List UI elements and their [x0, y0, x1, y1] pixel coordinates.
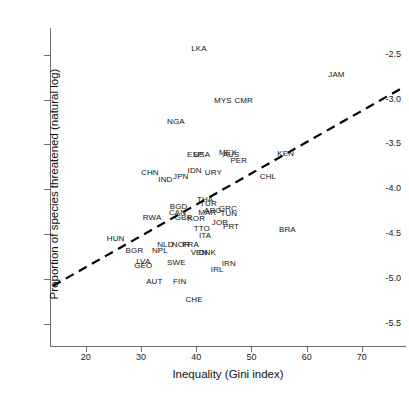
x-tick-label: 50: [231, 352, 271, 362]
data-point-label: SWE: [167, 259, 186, 267]
data-point-label: TUN: [220, 210, 237, 218]
data-point-label: FIN: [173, 278, 186, 286]
data-point-label: JAM: [328, 71, 344, 79]
data-point-label: PRT: [223, 223, 239, 231]
data-point-label: DNK: [199, 249, 216, 257]
data-point-label: USA: [193, 151, 210, 159]
x-tick-label: 60: [287, 352, 327, 362]
y-tick-label: -4.0: [365, 184, 409, 193]
y-tick-label: -5.0: [365, 274, 409, 283]
data-point-label: NGA: [167, 118, 185, 126]
data-point-label: NPL: [152, 247, 168, 255]
data-point-label: HUN: [107, 235, 125, 243]
y-tick-label: -4.5: [365, 229, 409, 238]
data-point-label: CMR: [234, 97, 253, 105]
x-tick-label: 30: [121, 352, 161, 362]
data-point-label: CHL: [260, 173, 276, 181]
x-axis-title: Inequality (Gini index): [50, 368, 406, 380]
data-point-label: BRA: [279, 226, 296, 234]
data-point-label: KEN: [277, 150, 294, 158]
data-point-label: BGR: [126, 247, 144, 255]
x-tick-label: 70: [342, 352, 382, 362]
data-point-label: IRN: [222, 260, 236, 268]
data-point-label: AUT: [146, 278, 162, 286]
data-point-label: GEO: [134, 262, 152, 270]
data-point-label: JPN: [173, 173, 188, 181]
data-point-label: CHE: [185, 296, 202, 304]
y-tick-label: -3.0: [365, 95, 409, 104]
data-point-label: RWA: [143, 214, 162, 222]
data-point-label: KOR: [187, 215, 205, 223]
x-tick-label: 40: [176, 352, 216, 362]
data-point-label: CHN: [141, 169, 159, 177]
x-tick-label: 20: [66, 352, 106, 362]
x-axis-line: [50, 346, 406, 347]
data-point-label: URY: [205, 169, 222, 177]
scatter-plot: -2.5-3.0-3.5-4.0-4.5-5.0-5.5 20304050607…: [0, 0, 409, 395]
data-point-label: LKA: [191, 45, 206, 53]
data-point-label: ITA: [199, 232, 211, 240]
y-tick-label: -3.5: [365, 139, 409, 148]
y-axis-title: Proportion of species threatened (natura…: [48, 34, 60, 334]
data-point-label: IRL: [211, 266, 224, 274]
data-point-label: PER: [230, 157, 247, 165]
data-point-label: IND: [158, 176, 172, 184]
data-point-label: IDN: [188, 167, 202, 175]
y-tick-label: -5.5: [365, 319, 409, 328]
data-point-label: MYS: [214, 97, 232, 105]
y-tick-label: -2.5: [365, 50, 409, 59]
